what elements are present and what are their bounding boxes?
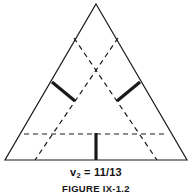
value-label-equals: = [84,166,91,178]
value-label-value: 11/13 [94,166,122,178]
value-label: v2 = 11/13 [0,166,192,178]
thick-segment-right [117,82,140,101]
geometry-diagram [0,0,192,194]
value-label-subscript: 2 [76,171,80,180]
dashed-diagonal-right [35,38,118,160]
figure-container: v2 = 11/13 FIGURE IX-1.2 [0,0,192,194]
dashed-diagonal-left [74,38,157,160]
thick-segment-left [52,82,75,101]
figure-caption: FIGURE IX-1.2 [0,183,192,194]
